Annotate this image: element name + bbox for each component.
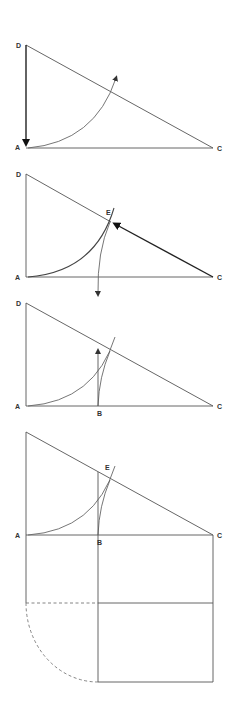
label-d: D	[16, 171, 21, 178]
label-a: A	[15, 274, 20, 281]
label-c: C	[217, 532, 222, 539]
arc-arrow-from-a	[28, 78, 116, 148]
label-c: C	[217, 403, 222, 410]
arc-a	[28, 466, 115, 535]
arrow-c-to-e	[115, 224, 213, 277]
label-a: A	[15, 532, 20, 539]
label-c: C	[217, 145, 222, 152]
label-b: B	[97, 410, 102, 417]
arc-a	[28, 337, 115, 406]
arc-e-to-b	[98, 351, 110, 406]
arc-a-to-e	[28, 208, 114, 277]
label-c: C	[217, 274, 222, 281]
hypotenuse-dc	[26, 45, 213, 148]
hypotenuse-dc	[26, 432, 213, 535]
label-b: B	[97, 539, 102, 546]
label-e: E	[106, 209, 111, 216]
label-e: E	[105, 464, 110, 471]
hypotenuse-dc	[26, 303, 213, 406]
label-d: D	[16, 42, 21, 49]
hypotenuse-de	[26, 174, 111, 222]
label-a: A	[15, 403, 20, 410]
arc-e-to-b	[98, 480, 110, 535]
panel-step-1: D A C	[15, 42, 222, 152]
panel-step-4: A C B E	[15, 432, 222, 682]
label-a: A	[15, 144, 20, 151]
golden-ratio-diagram: D A C D A C E D A C B	[0, 0, 235, 709]
panel-step-2: D A C E	[15, 171, 222, 294]
label-d: D	[16, 300, 21, 307]
panel-step-3: D A C B	[15, 300, 222, 417]
dashed-quarter-arc	[26, 603, 98, 682]
